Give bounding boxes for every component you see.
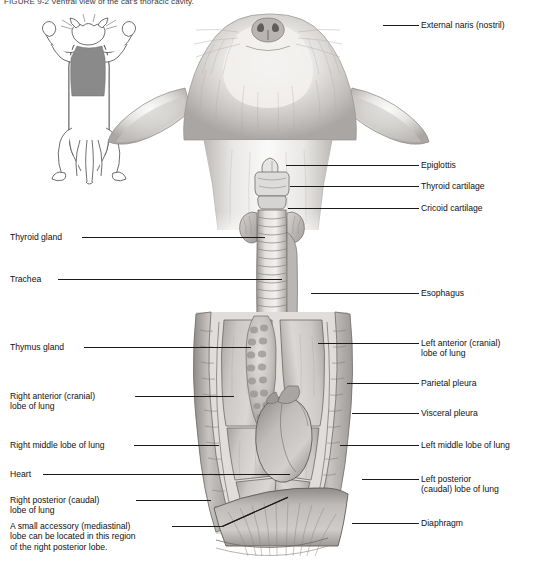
orientation-inset-cat — [42, 14, 135, 184]
label-thyroid-gland: Thyroid gland — [10, 232, 62, 242]
leader-right-posterior-lobe — [136, 500, 211, 501]
label-heart: Heart — [10, 469, 31, 479]
leader-left-anterior-lobe — [318, 343, 419, 344]
thoracic-cavity — [193, 312, 352, 556]
label-trachea: Trachea — [10, 274, 41, 284]
leader-accessory-lobe — [172, 526, 222, 527]
leader-visceral-pleura — [352, 413, 419, 414]
cricoid-cartilage — [258, 196, 287, 209]
thorax-shaded-region — [71, 46, 106, 96]
leader-thyroid-gland — [82, 237, 265, 238]
leader-parietal-pleura — [347, 383, 419, 384]
label-thyroid-cartilage: Thyroid cartilage — [421, 181, 485, 191]
label-epiglottis: Epiglottis — [421, 160, 456, 170]
leader-heart — [43, 474, 290, 475]
label-accessory-lobe-note: A small accessory (mediastinal) lobe can… — [10, 521, 136, 552]
label-visceral-pleura: Visceral pleura — [421, 408, 478, 418]
thyroid-cartilage — [255, 172, 289, 196]
label-diaphragm: Diaphragm — [421, 518, 463, 528]
leader-cricoid-cartilage — [288, 208, 419, 209]
label-right-middle-lobe: Right middle lobe of lung — [10, 440, 105, 450]
leader-esophagus — [311, 293, 419, 294]
label-cricoid-cartilage: Cricoid cartilage — [421, 203, 483, 213]
label-parietal-pleura: Parietal pleura — [421, 378, 476, 388]
label-esophagus: Esophagus — [421, 288, 464, 298]
leader-right-middle-lobe — [134, 445, 219, 446]
label-left-anterior-lobe: Left anterior (cranial) lobe of lung — [421, 338, 500, 359]
label-left-middle-lobe: Left middle lobe of lung — [421, 440, 510, 450]
heart — [256, 397, 312, 482]
esophagus — [287, 232, 298, 322]
leader-epiglottis — [286, 165, 419, 166]
label-right-posterior-lobe: Right posterior (caudal) lobe of lung — [10, 495, 99, 516]
leader-thyroid-cartilage — [290, 186, 419, 187]
leader-external-naris — [383, 25, 419, 26]
label-external-naris: External naris (nostril) — [421, 20, 505, 30]
label-right-anterior-lobe: Right anterior (cranial) lobe of lung — [10, 391, 95, 412]
leader-left-posterior-lobe — [362, 479, 419, 480]
leader-thymus-gland — [84, 347, 251, 348]
leader-diaphragm — [352, 523, 419, 524]
leader-trachea — [58, 279, 282, 280]
anatomical-figure: FIGURE 9-2 Ventral view of the cat's tho… — [0, 0, 537, 572]
leader-right-anterior-lobe — [135, 396, 234, 397]
label-left-posterior-lobe: Left posterior (caudal) lobe of lung — [421, 474, 499, 495]
label-thymus-gland: Thymus gland — [10, 342, 64, 352]
leader-left-middle-lobe — [340, 445, 419, 446]
